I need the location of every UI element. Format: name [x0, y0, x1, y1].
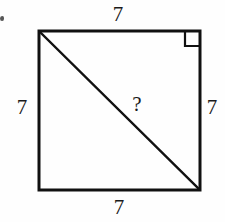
side-label-right: 7: [207, 97, 218, 118]
diagonal-line: [40, 32, 199, 189]
side-label-bottom: 7: [114, 197, 125, 218]
scan-artifact-speckle: [0, 16, 4, 21]
geometry-figure: 7 7 7 7 ?: [0, 0, 225, 222]
side-label-left: 7: [17, 97, 28, 118]
right-angle-marker-icon: [185, 32, 199, 46]
square-diagram-svg: [0, 0, 225, 222]
diagonal-label-unknown: ?: [132, 94, 141, 115]
side-label-top: 7: [113, 4, 124, 25]
